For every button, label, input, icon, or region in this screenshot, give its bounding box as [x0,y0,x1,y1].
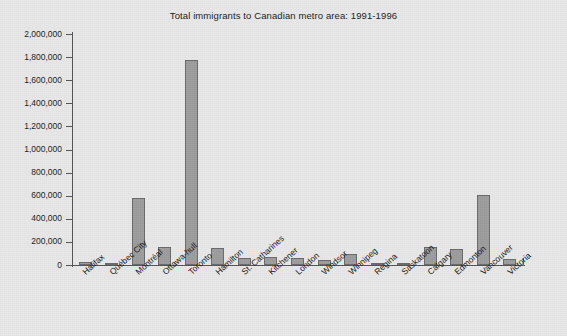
y-axis-tick-label: 2,000,000 [0,30,62,39]
y-axis-tick-label: 400,000 [0,214,62,223]
y-axis-tick [66,265,72,266]
y-axis-tick-label: 1,400,000 [0,99,62,108]
y-axis-tick-label: 1,800,000 [0,53,62,62]
bar-toronto[interactable] [185,60,198,265]
y-axis-tick-label: 600,000 [0,191,62,200]
bar-chart-figure: Total immigrants to Canadian metro area:… [0,0,567,336]
y-axis-tick-label: 800,000 [0,168,62,177]
y-axis-tick-label: 200,000 [0,237,62,246]
plot-area [72,34,523,265]
y-axis-tick-label: 1,200,000 [0,122,62,131]
y-axis-tick-label: 1,600,000 [0,76,62,85]
chart-title: Total immigrants to Canadian metro area:… [0,10,567,21]
y-axis-tick-label: 0 [0,261,62,270]
y-axis-tick-labels: 0200,000400,000600,000800,0001,000,0001,… [0,0,64,336]
y-axis-tick-label: 1,000,000 [0,145,62,154]
